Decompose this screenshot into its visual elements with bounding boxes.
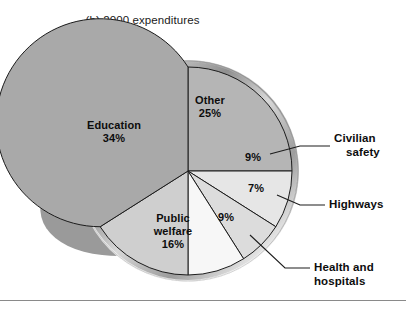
slice-label-other-value: 25%	[182, 107, 238, 120]
slice-label-education: Education 34%	[76, 119, 152, 145]
callout-highways: Highways	[329, 198, 383, 212]
slice-label-health-value: 9%	[211, 211, 241, 224]
slice-label-civilian-safety-value: 9%	[238, 151, 268, 164]
slice-label-other-name: Other	[182, 94, 238, 107]
callout-civilian-safety-line2: safety	[334, 146, 380, 160]
slice-label-highways-value: 7%	[241, 182, 271, 195]
callout-health-line1: Health and	[314, 261, 374, 275]
callout-health-and-hospitals: Health and hospitals	[314, 261, 374, 289]
slice-label-public-welfare-value: 16%	[140, 238, 206, 251]
slice-label-education-name: Education	[76, 119, 152, 132]
callout-highways-line1: Highways	[329, 198, 383, 212]
slice-label-public-welfare-line1: Public	[140, 212, 206, 225]
slice-label-education-value: 34%	[76, 132, 152, 145]
slice-label-other: Other 25%	[182, 94, 238, 120]
callout-civilian-safety-line1: Civilian	[334, 132, 380, 146]
callout-civilian-safety: Civilian safety	[334, 132, 380, 160]
slice-label-public-welfare: Public welfare 16%	[140, 212, 206, 251]
bottom-divider	[0, 300, 406, 301]
slice-label-public-welfare-line2: welfare	[140, 225, 206, 238]
callout-health-line2: hospitals	[314, 275, 374, 289]
figure-container: (b) 2000 expenditures	[0, 0, 406, 315]
